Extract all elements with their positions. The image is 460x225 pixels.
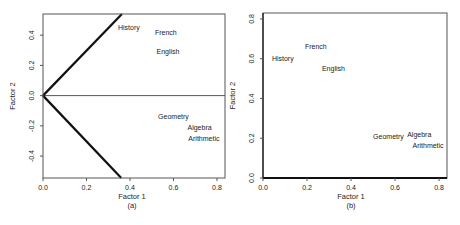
variable-label-french: French (155, 29, 177, 36)
x-tick-label: 0.2 (82, 184, 92, 191)
x-tick-label: 0.2 (302, 184, 312, 191)
rotated-axis-upper (43, 14, 122, 96)
y-tick-label: 0.6 (248, 54, 255, 64)
panel-b-rotated-loadings: 0.00.20.40.60.80.00.20.40.60.8Factor 1(b… (228, 13, 447, 210)
variable-label-geometry: Geometry (373, 133, 404, 141)
y-tick-label: 0.0 (248, 173, 255, 183)
y-tick-label: 0.0 (28, 91, 35, 101)
x-tick-label: 0.6 (169, 184, 179, 191)
x-tick-label: 0.4 (125, 184, 135, 191)
y-tick-label: 0.8 (248, 14, 255, 24)
variable-label-algebra: Algebra (407, 131, 431, 139)
x-tick-label: 0.0 (258, 184, 268, 191)
panel-a-unrotated-loadings: 0.00.20.40.60.8-0.4-0.20.00.20.4Factor 1… (8, 14, 225, 210)
variable-label-english: English (157, 48, 180, 56)
variable-label-english: English (322, 65, 345, 73)
variable-label-history: History (272, 55, 294, 63)
x-tick-label: 0.0 (38, 184, 48, 191)
variable-label-arithmetic: Arithmetic (188, 135, 220, 142)
variable-label-arithmetic: Arithmetic (413, 142, 445, 149)
x-tick-label: 0.8 (212, 184, 222, 191)
y-tick-label: 0.4 (28, 30, 35, 40)
y-tick-label: -0.2 (28, 120, 35, 132)
variable-label-algebra: Algebra (187, 124, 211, 132)
rotated-axis-lower (43, 96, 121, 178)
variable-label-history: History (118, 24, 140, 32)
y-tick-label: 0.4 (248, 94, 255, 104)
factor-loading-figure: 0.00.20.40.60.8-0.4-0.20.00.20.4Factor 1… (0, 0, 460, 225)
panel-caption: (a) (127, 201, 137, 210)
variable-label-geometry: Geometry (158, 113, 189, 121)
variable-label-french: French (305, 43, 327, 50)
y-axis-title: Factor 2 (8, 82, 17, 110)
y-tick-label: 0.2 (248, 133, 255, 143)
panel-caption: (b) (346, 201, 356, 210)
plot-frame (263, 13, 447, 178)
x-tick-label: 0.8 (434, 184, 444, 191)
x-tick-label: 0.6 (390, 184, 400, 191)
x-axis-title: Factor 1 (337, 192, 365, 201)
x-axis-title: Factor 1 (118, 192, 146, 201)
y-tick-label: 0.2 (28, 60, 35, 70)
y-axis-title: Factor 2 (228, 82, 237, 110)
y-tick-label: -0.4 (28, 150, 35, 162)
x-tick-label: 0.4 (346, 184, 356, 191)
